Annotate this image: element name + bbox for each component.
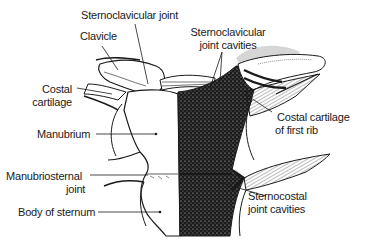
costal-cartilage-second	[244, 154, 330, 190]
label-sternocostal-cavities-line1: Sternocostal	[248, 190, 307, 202]
label-sc-joint-cavities-line2: joint cavities	[187, 39, 269, 51]
label-body-of-sternum: Body of sternum	[18, 206, 95, 218]
label-clavicle: Clavicle	[80, 30, 117, 42]
sternum-section	[178, 66, 254, 236]
label-manubrium: Manubrium	[37, 128, 90, 140]
label-costal-cartilage-line2: cartilage	[22, 96, 72, 108]
label-costal-first-rib-line1: Costal cartilage	[277, 111, 350, 123]
label-costal-first-rib-line2: of first rib	[275, 124, 318, 136]
anatomy-diagram: Sternoclavicular joint Clavicle Costal c…	[0, 0, 369, 248]
manubrium-left	[124, 90, 180, 236]
label-costal-cartilage-line1: Costal	[36, 83, 72, 95]
label-manubriosternal-joint-line1: Manubriosternal	[6, 170, 82, 182]
label-manubriosternal-joint-line2: joint	[66, 183, 85, 195]
label-sternoclavicular-joint: Sternoclavicular joint	[81, 9, 178, 21]
label-sternocostal-cavities-line2: joint cavities	[248, 203, 305, 215]
label-sc-joint-cavities-line1: Sternoclavicular	[187, 26, 269, 38]
artist-signature: HRS	[185, 230, 199, 237]
